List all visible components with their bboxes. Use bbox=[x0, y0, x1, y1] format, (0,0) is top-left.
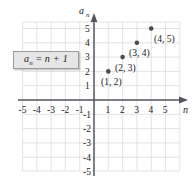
data-point-label: (3, 4) bbox=[129, 48, 150, 59]
x-axis-label: n bbox=[183, 104, 188, 115]
y-tick-label: -5 bbox=[83, 167, 91, 177]
y-tick-label: -4 bbox=[83, 153, 91, 163]
y-axis-label-variable: a bbox=[79, 5, 84, 16]
y-tick-label: 4 bbox=[85, 38, 90, 48]
x-tick-label: -3 bbox=[47, 105, 55, 115]
y-axis bbox=[91, 13, 98, 176]
y-tick-label: -1 bbox=[83, 110, 91, 120]
x-tick-labels-negative: -5 -4 -3 -2 -1 bbox=[19, 105, 84, 115]
data-point bbox=[135, 41, 140, 46]
y-tick-label: 3 bbox=[85, 52, 90, 62]
y-tick-label: 1 bbox=[85, 81, 90, 91]
x-tick-label: 2 bbox=[120, 105, 125, 115]
y-tick-label: -2 bbox=[83, 124, 91, 134]
y-tick-labels-negative: -1 -2 -3 -4 -5 bbox=[83, 110, 91, 177]
x-tick-labels-positive: 1 2 3 4 5 bbox=[106, 105, 168, 115]
y-tick-label: -3 bbox=[83, 138, 91, 148]
data-point-label: (1, 2) bbox=[101, 77, 122, 88]
x-tick-label: -2 bbox=[61, 105, 69, 115]
formula-text: an = n + 1 bbox=[24, 53, 68, 67]
x-tick-label: -5 bbox=[19, 105, 27, 115]
x-tick-label: -4 bbox=[33, 105, 41, 115]
x-tick-label: 1 bbox=[106, 105, 111, 115]
y-axis-label: a n bbox=[79, 5, 90, 19]
data-point-label: (4, 5) bbox=[154, 34, 175, 45]
grid-horizontal-lines bbox=[23, 22, 180, 171]
data-point bbox=[149, 26, 154, 31]
data-point-label: (2, 3) bbox=[115, 63, 136, 74]
formula-annotation-box: an = n + 1 bbox=[13, 51, 79, 69]
y-tick-label: 5 bbox=[85, 24, 90, 34]
sequence-scatter-plot-figure: a n n -5 -4 -3 -2 -1 1 2 3 4 5 1 2 3 4 5 bbox=[0, 0, 195, 189]
x-axis bbox=[18, 97, 188, 104]
data-point bbox=[106, 69, 111, 74]
y-tick-labels-positive: 1 2 3 4 5 bbox=[85, 24, 90, 91]
x-tick-label: 3 bbox=[134, 105, 139, 115]
x-tick-label: 5 bbox=[163, 105, 168, 115]
formula-equals: = bbox=[36, 53, 42, 64]
coordinate-plane: a n n -5 -4 -3 -2 -1 1 2 3 4 5 1 2 3 4 5 bbox=[0, 0, 195, 189]
x-tick-label: 4 bbox=[149, 105, 154, 115]
formula-subscript: n bbox=[29, 59, 33, 67]
y-axis-label-subscript: n bbox=[86, 11, 90, 19]
data-point bbox=[120, 55, 125, 60]
y-tick-label: 2 bbox=[85, 67, 90, 77]
grid-vertical-lines bbox=[23, 22, 180, 171]
formula-expression: n + 1 bbox=[45, 53, 68, 64]
